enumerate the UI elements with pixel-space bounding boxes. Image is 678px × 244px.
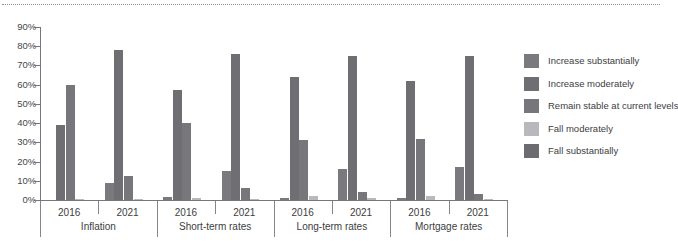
legend-swatch-icon — [524, 144, 539, 158]
x-axis-band: 20162021Inflation20162021Short-term rate… — [40, 201, 508, 241]
x-axis-inner-separator — [215, 201, 216, 214]
bar — [416, 139, 425, 200]
legend-item[interactable]: Fall moderately — [524, 120, 660, 143]
x-axis-inner-separator — [332, 201, 333, 214]
y-axis-tick — [34, 142, 41, 143]
bar — [114, 50, 123, 200]
legend-swatch-icon — [524, 54, 539, 68]
x-axis-year-label: 2016 — [390, 207, 448, 219]
bar — [75, 199, 84, 200]
bar — [426, 196, 435, 200]
bar — [299, 140, 308, 200]
bar — [250, 199, 259, 200]
y-axis-tick — [34, 65, 41, 66]
legend-label: Increase substantially — [548, 55, 639, 67]
y-axis-tick — [34, 181, 41, 182]
x-axis-year-label: 2021 — [449, 207, 507, 219]
y-axis-tick-label: 30% — [0, 137, 36, 147]
x-axis-year-label: 2016 — [40, 207, 98, 219]
bar — [309, 196, 318, 200]
bar — [338, 169, 347, 200]
bar — [348, 56, 357, 200]
y-axis-tick — [34, 123, 41, 124]
y-axis-tick-label: 10% — [0, 176, 36, 186]
plot-area: 90%80%70%60%50%40%30%20%10%0% 20162021In… — [0, 16, 512, 244]
y-axis-tick-label: 20% — [0, 157, 36, 167]
bar — [474, 194, 483, 200]
x-axis-year-label: 2016 — [157, 207, 215, 219]
legend-label: Fall moderately — [548, 123, 613, 135]
legend-item[interactable]: Fall substantially — [524, 142, 660, 165]
y-axis-tick — [34, 200, 41, 201]
y-axis-tick-label: 50% — [0, 99, 36, 109]
bar — [173, 90, 182, 200]
bar — [465, 56, 474, 200]
x-axis-year-label: 2016 — [274, 207, 332, 219]
y-axis-tick-label: 90% — [0, 22, 36, 32]
x-axis-inner-separator — [449, 201, 450, 214]
x-axis-group-label: Long-term rates — [274, 221, 391, 233]
chart-legend: Increase substantiallyIncrease moderatel… — [524, 52, 660, 165]
y-axis-tick — [34, 162, 41, 163]
x-axis-inner-separator — [98, 201, 99, 214]
bar — [124, 176, 133, 200]
bars-container — [41, 27, 508, 200]
bar — [134, 199, 143, 200]
bar — [367, 198, 376, 200]
bar — [280, 198, 289, 200]
x-axis-year-label: 2021 — [215, 207, 273, 219]
bar — [397, 198, 406, 200]
legend-label: Fall substantially — [548, 145, 618, 157]
legend-swatch-icon — [524, 122, 539, 136]
y-axis-tick — [34, 85, 41, 86]
bar — [241, 188, 250, 200]
y-axis-tick — [34, 27, 41, 28]
bar — [358, 192, 367, 200]
top-dotted-rule — [2, 4, 660, 5]
legend-item[interactable]: Increase moderately — [524, 75, 660, 98]
bar — [163, 197, 172, 200]
y-axis-tick-label: 80% — [0, 41, 36, 51]
y-axis-tick-label: 60% — [0, 80, 36, 90]
y-axis-tick — [34, 46, 41, 47]
y-axis-tick-label: 40% — [0, 118, 36, 128]
bar — [231, 54, 240, 200]
y-axis-tick-label: 0% — [0, 195, 36, 205]
legend-label: Increase moderately — [548, 78, 634, 90]
bar — [290, 77, 299, 200]
y-axis-tick-label: 70% — [0, 60, 36, 70]
x-axis-group-label: Inflation — [40, 221, 157, 233]
legend-swatch-icon — [524, 77, 539, 91]
bar — [56, 125, 65, 200]
x-axis-group-separator — [507, 201, 508, 237]
x-axis-group-label: Short-term rates — [157, 221, 274, 233]
legend-swatch-icon — [524, 99, 539, 113]
bar — [484, 199, 493, 200]
legend-item[interactable]: Increase substantially — [524, 52, 660, 75]
legend-label: Remain stable at current levels — [548, 100, 678, 112]
x-axis-group-separator — [40, 201, 41, 237]
bar — [455, 167, 464, 200]
bar — [406, 81, 415, 200]
bar — [222, 171, 231, 200]
x-axis-year-label: 2021 — [98, 207, 156, 219]
bar — [66, 85, 75, 200]
bar — [105, 183, 114, 200]
legend-item[interactable]: Remain stable at current levels — [524, 97, 660, 120]
bar — [182, 123, 191, 200]
x-axis-group-label: Mortgage rates — [390, 221, 507, 233]
bar — [192, 198, 201, 200]
y-axis-tick — [34, 104, 41, 105]
y-axis-labels: 90%80%70%60%50%40%30%20%10%0% — [0, 16, 36, 206]
x-axis-year-label: 2021 — [332, 207, 390, 219]
